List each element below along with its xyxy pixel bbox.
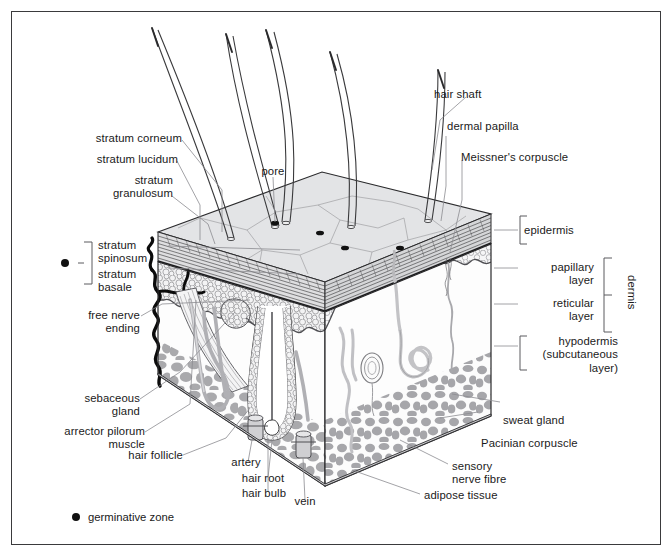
label-dermal-papilla: dermal papilla [447,120,557,133]
label-stratum-corneum: stratum corneum [30,132,182,145]
label-sensory-nerve-fibre: sensory nerve fibre [452,460,552,487]
label-vein: vein [280,495,330,508]
germinative-zone-legend-icon [72,513,80,521]
label-hair-follicle: hair follicle [103,449,183,462]
label-free-nerve-ending: free nerve ending [30,309,140,336]
legend: germinative zone [72,511,174,523]
label-sebaceous-gland: sebaceous gland [28,392,140,419]
label-hair-shaft: hair shaft [434,88,524,101]
label-stratum-basale: stratum basale [98,268,178,295]
label-arrector-pilorum-muscle: arrector pilorum muscle [20,425,145,452]
label-stratum-granulosum: stratum granulosum [30,174,173,201]
label-hypodermis: hypodermis (subcutaneous layer) [510,335,618,375]
figure-root: stratum corneum stratum lucidum stratum … [0,0,672,556]
label-pore: pore [249,165,297,178]
hair-shaft-tips [152,28,444,88]
label-adipose-tissue: adipose tissue [424,489,544,502]
label-hair-root: hair root [225,472,301,485]
label-meissners-corpuscle: Meissner's corpuscle [461,151,621,164]
label-artery: artery [216,456,276,469]
label-papillary-layer: papillary layer [519,261,594,288]
label-pacinian-corpuscle: Pacinian corpuscle [481,437,621,450]
germinative-zone-marker [61,259,69,267]
legend-label: germinative zone [88,511,174,523]
label-epidermis: epidermis [524,224,614,237]
label-dermis: dermis [625,275,638,325]
label-stratum-lucidum: stratum lucidum [30,153,178,166]
label-reticular-layer: reticular layer [519,297,594,324]
label-stratum-spinosum: stratum spinosum [98,239,178,266]
label-sweat-gland: sweat gland [503,414,603,427]
